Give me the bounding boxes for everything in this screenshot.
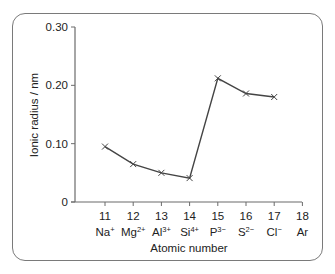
data-series [102, 75, 277, 181]
y-tick-label: 0 [62, 196, 68, 208]
x-tick-label: 13 [155, 210, 168, 222]
x-tick-label: 18 [296, 210, 309, 222]
axes: 00.100.200.3011Na+12Mg2+13Al3+14Si4+15P3… [46, 21, 309, 238]
y-tick-label: 0.30 [46, 21, 68, 33]
x-tick-label: 16 [240, 210, 253, 222]
y-tick-label: 0.20 [46, 79, 68, 91]
ion-label: Mg2+ [121, 225, 146, 238]
ion-label: Ar [297, 226, 309, 238]
ion-label: Si4+ [180, 225, 199, 238]
x-axis-title: Atomic number [150, 242, 228, 254]
series-line [105, 78, 274, 178]
ion-label: Na+ [95, 225, 115, 238]
x-tick-label: 15 [211, 210, 224, 222]
x-marker-icon [102, 144, 108, 150]
x-tick-label: 11 [99, 210, 111, 222]
ionic-radius-chart: 00.100.200.3011Na+12Mg2+13Al3+14Si4+15P3… [0, 0, 335, 274]
y-tick-label: 0.10 [46, 138, 68, 150]
ion-label: S2− [238, 225, 255, 238]
x-tick-label: 17 [268, 210, 281, 222]
x-tick-label: 12 [127, 210, 140, 222]
ion-label: Al3+ [152, 225, 171, 238]
x-tick-label: 14 [183, 210, 196, 222]
y-axis-title: Ionic radius / nm [28, 73, 40, 157]
ion-label: P3− [210, 225, 227, 238]
ion-label: Cl− [267, 225, 283, 238]
